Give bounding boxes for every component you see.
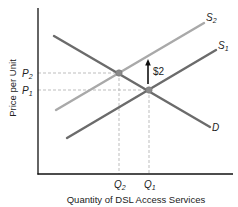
shift-label: $2 [153, 66, 165, 77]
q1-label: Q1 [144, 179, 156, 191]
s1-label: S1 [218, 40, 229, 52]
supply-curve-s1 [67, 50, 216, 138]
equilibrium-point-e1 [146, 87, 152, 93]
x-axis-title: Quantity of DSL Access Services [67, 194, 206, 205]
supply-curve-s2 [56, 23, 204, 110]
shift-arrow-icon [145, 59, 151, 84]
p2-label: P2 [22, 68, 33, 80]
demand-curve [54, 36, 210, 127]
y-axis-title: Price per Unit [7, 59, 18, 117]
d-label: D [212, 122, 219, 133]
equilibrium-point-e2 [116, 70, 122, 76]
s2-label: S2 [206, 12, 217, 24]
p1-label: P1 [22, 85, 33, 97]
supply-demand-chart: $2 S2 S1 D P2 P1 Q2 Q1 Quantity of DSL A… [0, 0, 238, 207]
q2-label: Q2 [114, 179, 126, 191]
